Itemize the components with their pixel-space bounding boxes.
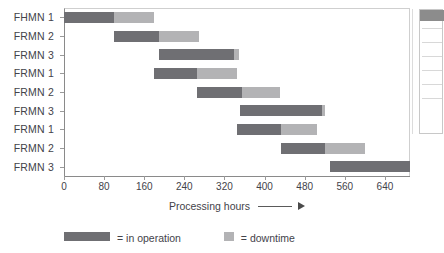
bar-segment-operation <box>330 161 410 172</box>
bar-segment-downtime <box>242 87 280 98</box>
bar-segment-downtime <box>234 49 239 60</box>
x-axis-caption-text: Processing hours <box>169 200 250 212</box>
bar-segment-downtime <box>159 31 199 42</box>
side-panel-rows <box>422 28 442 112</box>
x-axis-tick-label: 160 <box>136 181 153 192</box>
x-axis-tick <box>144 176 145 180</box>
bar-segment-downtime <box>281 124 318 135</box>
bar-segment-downtime <box>322 105 325 116</box>
bar-segment-downtime <box>197 68 237 79</box>
y-axis-label: FHMN 1 <box>14 8 54 26</box>
y-axis-labels: FHMN 1FRMN 2FRMN 3FRMN 1FRMN 2FRMN 3FRMN… <box>0 8 62 176</box>
gantt-bar-row <box>64 12 410 23</box>
side-panel-row <box>422 84 442 85</box>
x-axis-tick <box>184 176 185 180</box>
bar-segment-operation <box>281 143 325 154</box>
legend-swatch-downtime <box>224 232 234 241</box>
gantt-bar-row <box>64 87 410 98</box>
bar-segment-operation <box>64 12 114 23</box>
x-axis-tick-label: 560 <box>336 181 353 192</box>
gantt-bar-row <box>64 49 410 60</box>
x-axis-tick-label: 0 <box>61 181 67 192</box>
bar-segment-operation <box>237 124 281 135</box>
legend-item-downtime: = downtime <box>224 231 295 244</box>
y-axis-label: FRMN 2 <box>14 83 54 101</box>
x-axis-tick <box>385 176 386 180</box>
y-axis-label: FRMN 2 <box>14 27 54 45</box>
x-axis-tick-label: 640 <box>377 181 394 192</box>
gantt-bar-row <box>64 31 410 42</box>
x-axis-tick-label: 480 <box>296 181 313 192</box>
x-axis-caption: Processing hours <box>64 200 410 212</box>
side-panel-row <box>422 28 442 29</box>
y-axis-label: FRMN 3 <box>14 46 54 64</box>
x-axis-tick-label: 400 <box>256 181 273 192</box>
legend-swatch-operation <box>64 232 110 241</box>
x-axis-tick <box>224 176 225 180</box>
panel-edge-rule <box>412 9 413 134</box>
side-panel <box>419 9 443 134</box>
y-axis-label: FRMN 1 <box>14 120 54 138</box>
side-panel-row <box>422 42 442 43</box>
bar-segment-operation <box>159 49 234 60</box>
legend-item-operation: = in operation <box>64 231 181 244</box>
bar-segment-operation <box>240 105 323 116</box>
bar-segment-operation <box>197 87 242 98</box>
x-axis-tick <box>345 176 346 180</box>
bars-area <box>64 8 410 176</box>
bar-segment-operation <box>114 31 159 42</box>
x-axis-tick-label: 80 <box>99 181 110 192</box>
bar-segment-downtime <box>325 143 365 154</box>
arrow-right-icon <box>298 202 305 210</box>
chart-legend: = in operation = downtime <box>64 230 295 242</box>
x-axis-tick <box>265 176 266 180</box>
x-axis-tick-label: 240 <box>176 181 193 192</box>
legend-label-downtime: = downtime <box>241 232 295 244</box>
legend-label-operation: = in operation <box>117 232 181 244</box>
gantt-bar-row <box>64 105 410 116</box>
x-axis-ticks: 080160240320400480560640 <box>0 176 432 184</box>
side-panel-row <box>422 70 442 71</box>
y-axis-label: FRMN 2 <box>14 139 54 157</box>
y-axis-label: FRMN 3 <box>14 102 54 120</box>
y-axis-label: FRMN 3 <box>14 158 54 176</box>
x-axis-tick <box>305 176 306 180</box>
x-axis-tick <box>64 176 65 180</box>
gantt-bar-row <box>64 68 410 79</box>
gantt-bar-row <box>64 161 410 172</box>
x-axis-tick-label: 320 <box>216 181 233 192</box>
bar-segment-downtime <box>114 12 154 23</box>
bar-segment-operation <box>154 68 197 79</box>
gantt-bar-row <box>64 124 410 135</box>
caption-rule <box>258 206 292 207</box>
gantt-bar-row <box>64 143 410 154</box>
x-axis-tick <box>104 176 105 180</box>
y-axis-label: FRMN 1 <box>14 64 54 82</box>
side-panel-row <box>422 98 442 99</box>
side-panel-row <box>422 56 442 57</box>
side-panel-header <box>420 10 444 21</box>
